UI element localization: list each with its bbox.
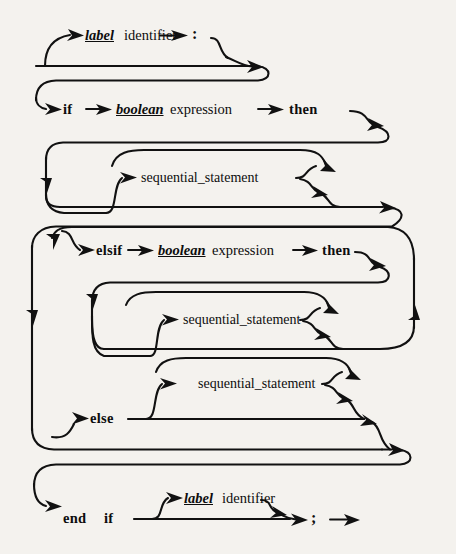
rail-seq2-exit-up bbox=[300, 308, 320, 320]
elsif-boolean-term: boolean bbox=[158, 243, 206, 258]
rail-else-to-bottom bbox=[372, 422, 390, 450]
if-expression-term: expression bbox=[170, 102, 232, 117]
rail-seq2-loop-top bbox=[126, 292, 329, 306]
syntax-diagram: label identifier : if boolean expression… bbox=[0, 0, 456, 554]
rail-seq2-entry-curve bbox=[150, 320, 164, 356]
keyword-end-if: if bbox=[104, 511, 113, 526]
keyword-elsif: elsif bbox=[96, 243, 122, 258]
rail-then-out bbox=[350, 111, 372, 124]
arrow-then2-left-down bbox=[86, 294, 98, 312]
rail-seq1-to-main bbox=[322, 194, 383, 207]
rail-then2-out bbox=[355, 252, 374, 264]
rail-seq3-loop-top bbox=[156, 358, 351, 372]
rail-label-branch-up bbox=[45, 35, 70, 66]
keyword-if: if bbox=[63, 102, 72, 117]
arrow-seq2-loop-in bbox=[323, 300, 339, 314]
rail-outer-bypass-bottom bbox=[32, 428, 382, 450]
rail-elsif-loop-right-bottom bbox=[380, 326, 414, 349]
rail-if-entry bbox=[36, 98, 46, 109]
arrow-seq3-loop-in bbox=[345, 366, 361, 380]
rail-row1-to-if bbox=[36, 67, 269, 101]
rail-else-entry-curve bbox=[52, 424, 74, 437]
else-sequential-statement: sequential_statement bbox=[198, 377, 315, 391]
rail-seq3-to-else-line bbox=[347, 400, 364, 419]
arrow-elsif-loop-return bbox=[46, 234, 60, 250]
rail-end-entry bbox=[34, 484, 46, 506]
label-row-label-term: label bbox=[85, 28, 114, 43]
keyword-else: else bbox=[90, 411, 114, 426]
label-row-colon: : bbox=[192, 26, 197, 42]
label-row-identifier: identifier bbox=[124, 28, 177, 43]
rail-endlabel-branch bbox=[152, 498, 168, 519]
rail-seq2-exit-down bbox=[303, 321, 321, 334]
arrow-outer-bypass-down bbox=[26, 310, 38, 329]
elsif-expression-term: expression bbox=[212, 243, 274, 258]
rail-then-left-bottom bbox=[46, 194, 106, 213]
keyword-end: end bbox=[63, 511, 86, 526]
then-sequential-statement: sequential_statement bbox=[141, 171, 258, 185]
rail-seq1-exit-up bbox=[296, 166, 316, 178]
rail-seq1-loop-top bbox=[112, 150, 326, 166]
arrow-into-if bbox=[45, 103, 62, 115]
arrow-elsif-loop-up bbox=[408, 302, 420, 320]
rail-seq2-to-main bbox=[325, 336, 380, 349]
end-identifier: identifier bbox=[222, 491, 275, 506]
rail-then-wrap bbox=[46, 127, 389, 160]
rail-to-end-row bbox=[34, 450, 411, 486]
arrow-seq1-loop-in bbox=[320, 158, 336, 172]
rail-seq3-entry-curve bbox=[146, 384, 162, 419]
arrow-into-else bbox=[72, 412, 89, 425]
if-boolean-term: boolean bbox=[116, 102, 164, 117]
keyword-then: then bbox=[289, 102, 318, 117]
rail-seq1-exit-down bbox=[300, 179, 318, 192]
rail-elsif-entry-curve bbox=[62, 231, 80, 250]
keyword-then-elsif: then bbox=[322, 243, 351, 258]
arrow-into-end bbox=[45, 500, 62, 512]
rail-seq3-exit-up bbox=[322, 372, 342, 384]
elsif-sequential-statement: sequential_statement bbox=[183, 313, 300, 327]
semicolon-terminal: ; bbox=[311, 510, 316, 526]
railroad-track-graphic bbox=[0, 0, 456, 554]
rail-colon-down bbox=[211, 38, 228, 58]
end-label-term: label bbox=[184, 491, 213, 506]
rail-then2-wrap bbox=[92, 267, 389, 302]
rail-seq3-exit-down bbox=[325, 385, 343, 398]
